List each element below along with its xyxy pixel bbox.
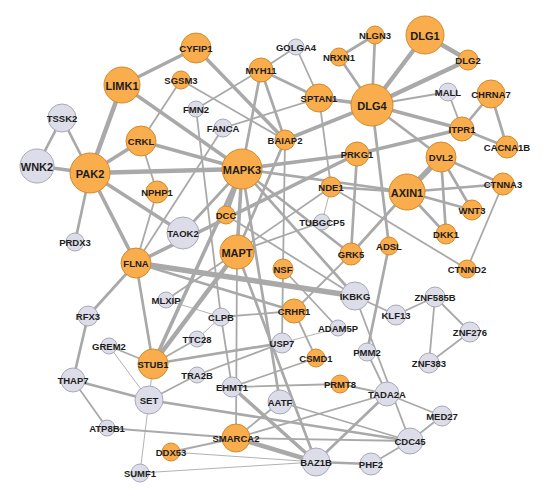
- node-label: DVL2: [429, 152, 453, 163]
- node-label: MYH11: [245, 65, 277, 76]
- interaction-network: DLG1DLG2NLGN3NRXN1GOLGA4CYFIP1MYH11LIMK1…: [0, 0, 551, 496]
- node-label: SUMF1: [124, 468, 157, 479]
- node-wnt3[interactable]: WNT3: [459, 200, 486, 220]
- node-label: PAK2: [76, 168, 105, 180]
- node-ttc28[interactable]: TTC28: [182, 331, 211, 347]
- node-ikbkg[interactable]: IKBKG: [340, 282, 371, 310]
- node-label: CTNNA3: [484, 179, 523, 190]
- node-atp8b1[interactable]: ATP8B1: [89, 420, 125, 436]
- node-label: RFX3: [76, 311, 100, 322]
- node-znf276[interactable]: ZNF276: [453, 322, 487, 342]
- node-fanca[interactable]: FANCA: [207, 119, 240, 137]
- node-aatf[interactable]: AATF: [268, 390, 293, 414]
- edge-mapt-smarca2: [236, 252, 237, 438]
- node-label: CDC45: [394, 436, 426, 447]
- node-dvl2[interactable]: DVL2: [426, 142, 456, 172]
- node-label: CTNND2: [448, 264, 487, 275]
- node-label: WNK2: [21, 161, 53, 173]
- node-fmn2[interactable]: FMN2: [183, 101, 209, 117]
- node-label: CYFIP1: [179, 43, 213, 54]
- node-tada2a[interactable]: TADA2A: [368, 382, 406, 406]
- node-chrna7[interactable]: CHRNA7: [471, 80, 511, 108]
- node-clpb[interactable]: CLPB: [208, 308, 234, 326]
- node-tubgcp5[interactable]: TUBGCP5: [299, 214, 345, 230]
- node-pmm2[interactable]: PMM2: [353, 343, 380, 361]
- node-label: NRXN1: [323, 52, 356, 63]
- node-taok2[interactable]: TAOK2: [167, 217, 199, 249]
- node-label: TADA2A: [368, 389, 406, 400]
- node-label: NLGN3: [359, 30, 391, 41]
- node-csmd1[interactable]: CSMD1: [299, 349, 333, 367]
- node-label: IKBKG: [340, 291, 371, 302]
- node-prdx3[interactable]: PRDX3: [59, 233, 91, 251]
- node-rfx3[interactable]: RFX3: [76, 306, 100, 326]
- node-label: SMARCA2: [213, 433, 260, 444]
- node-tra2b[interactable]: TRA2B: [181, 367, 213, 383]
- node-wnk2[interactable]: WNK2: [20, 149, 54, 183]
- node-phf2[interactable]: PHF2: [359, 453, 383, 475]
- node-prmt8[interactable]: PRMT8: [324, 375, 356, 393]
- node-axin1[interactable]: AXIN1: [389, 174, 425, 210]
- node-label: ATP8B1: [89, 423, 125, 434]
- node-limk1[interactable]: LIMK1: [104, 67, 140, 103]
- node-label: STUB1: [137, 359, 169, 370]
- node-mapt[interactable]: MAPT: [220, 235, 254, 269]
- node-label: FANCA: [207, 123, 240, 134]
- node-label: CLPB: [208, 312, 234, 323]
- node-smarca2[interactable]: SMARCA2: [213, 424, 260, 452]
- node-nphp1[interactable]: NPHP1: [141, 181, 173, 203]
- node-label: MAPT: [221, 247, 252, 259]
- node-adsl[interactable]: ADSL: [376, 237, 402, 255]
- edge-pak2-mapk3: [90, 169, 242, 173]
- node-label: GOLGA4: [276, 42, 317, 53]
- node-label: FMN2: [183, 104, 209, 115]
- node-label: BAIAP2: [268, 135, 303, 146]
- node-golga4[interactable]: GOLGA4: [276, 39, 317, 55]
- node-label: CHRNA7: [471, 89, 511, 100]
- node-ddx53[interactable]: DDX53: [156, 443, 187, 461]
- node-label: PRDX3: [59, 237, 91, 248]
- node-tssk2[interactable]: TSSK2: [47, 104, 78, 132]
- node-label: NDE1: [318, 182, 344, 193]
- node-stub1[interactable]: STUB1: [137, 349, 169, 379]
- node-label: CRHR1: [278, 306, 311, 317]
- node-ctnna3[interactable]: CTNNA3: [484, 173, 523, 195]
- node-mall[interactable]: MALL: [435, 83, 462, 101]
- node-mlxip[interactable]: MLXIP: [151, 292, 181, 308]
- node-label: ZNF585B: [414, 292, 455, 303]
- node-label: CSMD1: [299, 353, 333, 364]
- node-label: SGSM3: [164, 75, 197, 86]
- node-nsf[interactable]: NSF: [273, 259, 293, 279]
- node-klf13[interactable]: KLF13: [381, 305, 410, 325]
- node-label: MLXIP: [151, 295, 181, 306]
- node-set[interactable]: SET: [135, 386, 163, 414]
- node-grem2[interactable]: GREM2: [92, 338, 126, 354]
- node-dlg4[interactable]: DLG4: [351, 84, 393, 126]
- node-med27[interactable]: MED27: [426, 406, 458, 426]
- node-pak2[interactable]: PAK2: [70, 153, 110, 193]
- node-mapk3[interactable]: MAPK3: [222, 149, 262, 189]
- node-label: PRKG1: [341, 149, 374, 160]
- node-label: FLNA: [123, 258, 148, 269]
- node-sumf1[interactable]: SUMF1: [124, 464, 157, 482]
- node-dkk1[interactable]: DKK1: [433, 224, 460, 244]
- node-label: ITPR1: [449, 124, 477, 135]
- node-flna[interactable]: FLNA: [121, 248, 151, 278]
- node-label: GRK5: [338, 249, 365, 260]
- node-label: DLG4: [357, 100, 387, 112]
- node-ctnnd2[interactable]: CTNND2: [448, 260, 487, 278]
- node-thap7[interactable]: THAP7: [57, 368, 88, 392]
- edge-baiap2-nsf: [283, 140, 285, 269]
- node-znf383[interactable]: ZNF383: [412, 353, 446, 373]
- node-crkl[interactable]: CRKL: [126, 126, 156, 156]
- edge-ctnna3-ctnnd2: [467, 184, 503, 269]
- node-label: TRA2B: [181, 370, 213, 381]
- node-sptan1[interactable]: SPTAN1: [301, 84, 338, 112]
- node-ehmt1[interactable]: EHMT1: [216, 377, 249, 397]
- node-prkg1[interactable]: PRKG1: [341, 142, 374, 166]
- node-adam5p[interactable]: ADAM5P: [318, 320, 359, 336]
- node-itpr1[interactable]: ITPR1: [449, 117, 477, 141]
- node-label: NPHP1: [141, 187, 173, 198]
- node-label: TSSK2: [47, 113, 78, 124]
- node-dlg1[interactable]: DLG1: [406, 16, 444, 54]
